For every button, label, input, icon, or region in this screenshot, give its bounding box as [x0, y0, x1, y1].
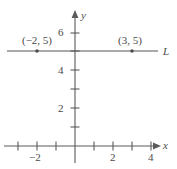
y-tick-label-2: 2 — [58, 103, 64, 114]
x-axis-label: x — [163, 140, 168, 151]
coordinate-plane-figure: (−2, 5) (3, 5) L x y −2 2 4 2 4 6 — [0, 0, 177, 169]
y-axis-label: y — [81, 10, 86, 21]
data-point-minus2-5 — [35, 49, 38, 52]
x-tick-label-2: 2 — [110, 152, 116, 163]
y-tick-label-4: 4 — [58, 65, 64, 76]
line-label-L: L — [163, 46, 169, 57]
graph-canvas — [0, 0, 177, 169]
y-axis-arrowhead — [72, 10, 79, 18]
x-axis-arrowhead — [153, 143, 161, 150]
data-point-3-5 — [130, 49, 133, 52]
point-label-left: (−2, 5) — [22, 35, 52, 46]
point-label-right: (3, 5) — [118, 35, 142, 46]
x-tick-label-minus-2: −2 — [29, 152, 41, 163]
y-tick-label-6: 6 — [58, 27, 64, 38]
x-tick-label-4: 4 — [148, 152, 154, 163]
